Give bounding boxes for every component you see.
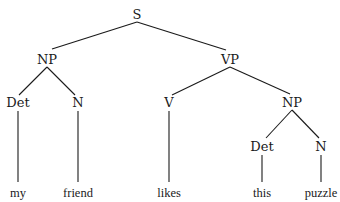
node-v: V xyxy=(164,96,173,109)
syntax-tree-diagram: S NP VP Det N V NP Det N my friend likes… xyxy=(0,0,340,202)
node-vp: VP xyxy=(221,53,239,66)
edge-s-vp xyxy=(137,22,226,50)
node-np-object: NP xyxy=(282,96,302,109)
leaf-word-likes: likes xyxy=(157,187,181,200)
node-s: S xyxy=(133,8,142,21)
node-det-subject: Det xyxy=(6,96,29,109)
edge-vp-np2 xyxy=(230,67,290,94)
edge-vp-v xyxy=(172,67,230,95)
leaf-word-my: my xyxy=(10,187,26,200)
edge-np1-n1 xyxy=(47,67,75,95)
node-n-subject: N xyxy=(72,96,83,109)
edge-np2-det2 xyxy=(266,110,292,138)
edge-s-np1 xyxy=(52,22,137,49)
leaf-word-puzzle: puzzle xyxy=(305,187,338,200)
leaf-word-friend: friend xyxy=(63,187,93,200)
node-np-subject: NP xyxy=(37,53,57,66)
edge-np1-det1 xyxy=(19,67,47,95)
node-det-object: Det xyxy=(250,140,273,153)
node-n-object: N xyxy=(315,140,326,153)
leaf-word-this: this xyxy=(253,187,271,200)
edge-np2-n2 xyxy=(292,110,319,138)
